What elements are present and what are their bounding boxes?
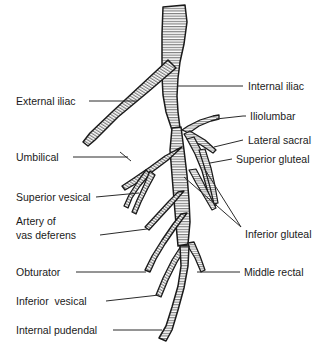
label-external-iliac: External iliac <box>16 95 76 107</box>
label-superior-gluteal: Superior gluteal <box>236 153 310 165</box>
leader-artery-of-vas-deferens <box>100 229 147 235</box>
label-inferior-gluteal: Inferior gluteal <box>245 228 312 240</box>
label-iliolumbar: Iliolumbar <box>250 110 296 122</box>
label-artery-of-vas-deferens-line2: vas deferens <box>16 229 76 241</box>
label-inferior-vesical: Inferior vesical <box>16 295 87 307</box>
label-umbilical: Umbilical <box>16 151 59 163</box>
vessel-middle-rectal <box>188 242 205 272</box>
label-superior-vesical: Superior vesical <box>16 191 91 203</box>
anatomy-figure: External iliac Umbilical Superior vesica… <box>0 0 324 353</box>
label-obturator: Obturator <box>16 266 60 278</box>
vessel-iliolumbar <box>182 115 219 133</box>
leader-lateral-sacral <box>214 140 243 147</box>
vessel-external-iliac <box>83 60 176 146</box>
label-lateral-sacral: Lateral sacral <box>248 134 311 146</box>
label-artery-of-vas-deferens-line1: Artery of <box>16 215 56 227</box>
label-internal-iliac: Internal iliac <box>248 80 304 92</box>
leader-iliolumbar <box>216 116 243 119</box>
leader-superior-gluteal <box>210 159 232 163</box>
leader-inferior-vesical <box>106 295 159 301</box>
label-internal-pudendal: Internal pudendal <box>16 324 97 336</box>
label-middle-rectal: Middle rectal <box>244 266 304 278</box>
